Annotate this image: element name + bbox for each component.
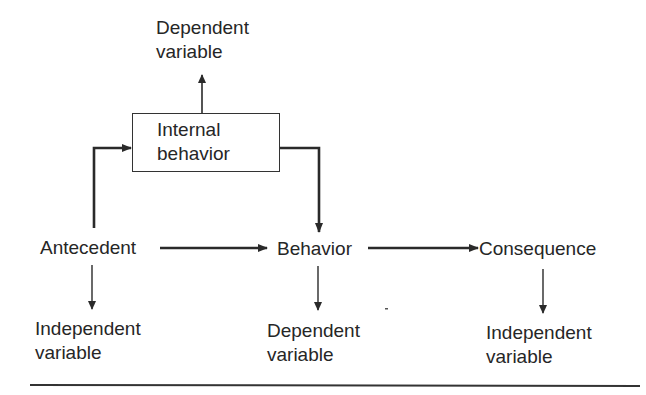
top-dependent-variable-label: Dependent variable [156,16,249,64]
behavior-node: Behavior [277,237,352,261]
bottom-rule [30,385,640,386]
consequence-node: Consequence [479,237,596,261]
antecedent-node: Antecedent [40,236,136,260]
behavior-dependent-variable-label: Dependent variable [267,319,360,367]
antecedent-independent-variable-label: Independent variable [35,317,141,365]
arrow-antecedent-to-internal [94,148,131,228]
internal-behavior-label: Internal behavior [157,118,230,166]
arrow-internal-to-behavior [280,148,319,232]
consequence-independent-variable-label: Independent variable [486,321,592,369]
